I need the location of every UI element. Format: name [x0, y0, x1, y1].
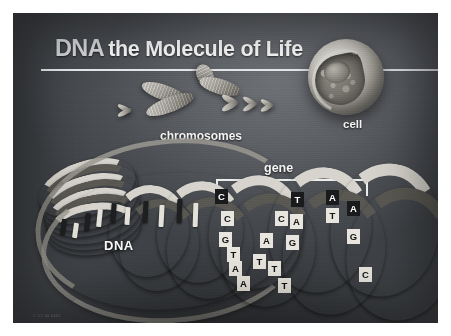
illustration-plate: DNAthe Molecule of Life cell chromosom	[13, 13, 438, 323]
credit-line: © CC 00 0401	[33, 314, 61, 318]
dna-poster: DNAthe Molecule of Life cell chromosom	[0, 0, 451, 336]
base-letter: G	[347, 229, 360, 244]
base-letter: T	[268, 261, 281, 276]
label-cell: cell	[343, 118, 362, 130]
base-letter: C	[221, 211, 234, 226]
base-letter: T	[278, 278, 291, 293]
base-letter: T	[253, 254, 266, 269]
base-letter: G	[286, 235, 299, 250]
base-letter: C	[359, 267, 372, 282]
label-dna: DNA	[104, 238, 134, 253]
base-letter: T	[291, 192, 304, 207]
title-rest: the Molecule of Life	[108, 37, 303, 61]
base-letter: A	[347, 201, 360, 216]
base-letter: G	[219, 232, 232, 247]
base-letter: T	[326, 208, 339, 223]
page-title: DNAthe Molecule of Life	[55, 35, 303, 62]
base-letter: C	[275, 211, 288, 226]
helix-rung-mid-3	[177, 199, 183, 223]
base-letter: A	[260, 233, 273, 248]
base-letter: T	[227, 247, 240, 262]
base-letter: A	[290, 214, 303, 229]
cell-illustration	[308, 39, 384, 115]
base-letter: A	[326, 190, 339, 205]
base-letter: A	[237, 276, 250, 291]
chromosome-large-arm-lower-right	[198, 74, 243, 100]
title-dna-word: DNA	[55, 35, 104, 61]
helix-rung-mid-4	[193, 203, 199, 227]
chromosome-small-1b	[221, 99, 240, 113]
base-letter: A	[229, 261, 242, 276]
base-letter: C	[215, 189, 228, 204]
